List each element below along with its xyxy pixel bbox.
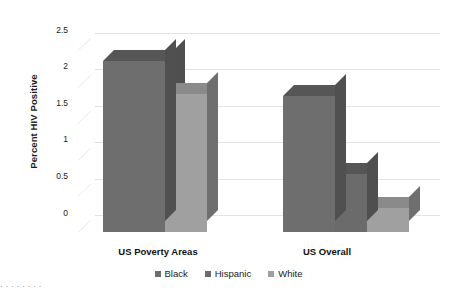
legend-label-black: Black (165, 268, 188, 279)
legend-item-hispanic[interactable]: Hispanic (205, 268, 251, 279)
bar-poverty-black (103, 61, 165, 232)
clipped-caption-text: · · · · · · · · (0, 285, 457, 293)
legend-swatch-icon-hispanic (205, 271, 211, 277)
chart-legend: Black Hispanic White (0, 268, 457, 279)
legend-item-black[interactable]: Black (155, 268, 188, 279)
gridline-2.5 (95, 33, 440, 34)
axis-wall-left (78, 20, 95, 232)
y-tick-label-0: 0 (34, 208, 68, 218)
y-tick-label-2: 2 (34, 61, 68, 71)
legend-swatch-icon-white (268, 271, 274, 277)
bar-overall-black (283, 96, 335, 232)
legend-swatch-icon-black (155, 271, 161, 277)
legend-label-hispanic: Hispanic (215, 268, 251, 279)
category-label-us-overall: US Overall (272, 246, 382, 257)
legend-label-white: White (278, 268, 302, 279)
legend-item-white[interactable]: White (268, 268, 302, 279)
y-tick-label-1.5: 1.5 (34, 98, 68, 108)
y-tick-label-2.5: 2.5 (34, 25, 68, 35)
y-tick-label-1: 1 (34, 134, 68, 144)
category-label-us-poverty-areas: US Poverty Areas (93, 246, 223, 257)
plot-area (78, 20, 440, 232)
y-tick-label-0.5: 0.5 (34, 171, 68, 181)
chart-container: Percent HIV Positive 2.5 2 1.5 1 0.5 0 (0, 0, 457, 293)
clipped-caption-content: · · · · · · · · (0, 285, 41, 291)
